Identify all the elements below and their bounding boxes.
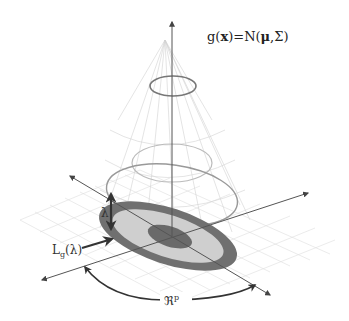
formula-mid: )=N( [228, 29, 260, 44]
formula-mu: μ [261, 29, 271, 44]
lambda-label: λ [101, 206, 109, 220]
axis-x1 [70, 176, 270, 295]
gaussian-diagram: λ Lg(λ) ℜp [0, 0, 349, 321]
formula-var: x [220, 29, 228, 44]
formula-rest: ,Σ) [270, 29, 288, 44]
level-set-pointer-arrow [82, 239, 112, 248]
density-formula: g(x)=N(μ,Σ) [207, 29, 289, 44]
formula-lhs: g( [207, 29, 220, 44]
level-set-label: Lg(λ) [52, 243, 82, 259]
